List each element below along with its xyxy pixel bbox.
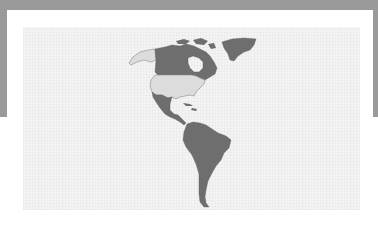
- region-south-america[interactable]: [183, 122, 231, 207]
- region-canada[interactable]: [155, 44, 217, 80]
- region-alaska[interactable]: [129, 49, 156, 65]
- region-caribbean: [183, 103, 197, 111]
- americas-map: [0, 0, 378, 228]
- region-greenland[interactable]: [222, 38, 256, 61]
